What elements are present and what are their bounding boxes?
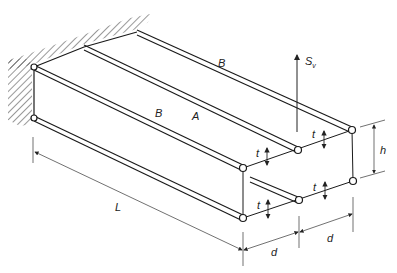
beam-drawing	[0, 0, 397, 273]
dimension-lines	[33, 120, 385, 266]
thickness-markers	[267, 131, 325, 218]
wall-support	[8, 14, 150, 126]
label-height: h	[380, 145, 386, 156]
label-panel-b-front: B	[155, 108, 162, 119]
label-width-right: d	[327, 233, 333, 244]
label-shear-load: Sv	[305, 56, 316, 69]
shear-load-subscript: v	[312, 62, 316, 69]
label-thickness-1: t	[256, 148, 259, 159]
label-length: L	[115, 202, 121, 213]
label-width-left: d	[271, 247, 277, 258]
label-thickness-4: t	[313, 182, 316, 193]
label-panel-a: A	[192, 111, 199, 122]
label-thickness-2: t	[312, 129, 315, 140]
box-beam-diagram: B B A Sv L h d d t t t t	[0, 0, 397, 273]
label-thickness-3: t	[257, 200, 260, 211]
label-panel-b-top: B	[218, 58, 225, 69]
